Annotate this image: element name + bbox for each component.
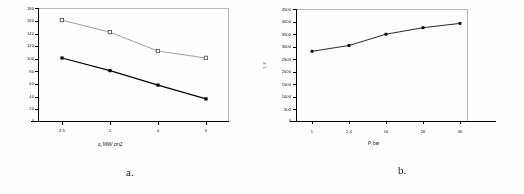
series-marker-b xyxy=(311,50,314,53)
figure-panel-b: 4500 4000 3500 3000 2500 2000 1500 1000 … xyxy=(262,0,524,194)
series-layer-a xyxy=(0,0,262,160)
series-marker-lower-a xyxy=(108,69,111,72)
series-marker-lower-a xyxy=(204,97,207,100)
series-marker-upper-a xyxy=(204,56,207,59)
series-line-lower-a xyxy=(62,58,206,99)
figure-panel-row: 180 160 140 120 100 80 60 40 20 0 2.5 1 … xyxy=(0,0,524,194)
series-marker-b xyxy=(348,44,351,47)
series-line-b xyxy=(312,23,460,51)
series-marker-b xyxy=(422,26,425,29)
series-marker-b xyxy=(385,33,388,36)
panel-caption-b: b. xyxy=(398,164,406,176)
chart-b: 4500 4000 3500 3000 2500 2000 1500 1000 … xyxy=(262,0,524,160)
series-layer-b xyxy=(262,0,524,160)
series-marker-lower-a xyxy=(60,56,63,59)
series-marker-lower-a xyxy=(156,84,159,87)
series-marker-b xyxy=(459,22,462,25)
chart-a: 180 160 140 120 100 80 60 40 20 0 2.5 1 … xyxy=(0,0,262,160)
series-line-upper-a xyxy=(62,20,206,58)
panel-caption-a: a. xyxy=(126,166,134,178)
series-marker-upper-a xyxy=(108,30,111,33)
figure-panel-a: 180 160 140 120 100 80 60 40 20 0 2.5 1 … xyxy=(0,0,262,194)
series-marker-upper-a xyxy=(156,49,159,52)
series-marker-upper-a xyxy=(60,18,63,21)
